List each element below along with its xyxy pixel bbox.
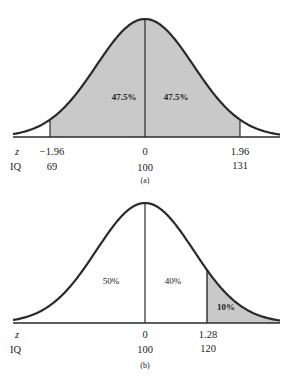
panel-a: 47.5% 47.5% z IQ −1.96 0 1.96 69 100 131… [10, 19, 280, 185]
pct-right-a: 47.5% [164, 92, 189, 102]
pct-tail-b: 10% [217, 302, 235, 312]
normal-curve-b [13, 203, 280, 321]
caption-b: (b) [140, 361, 150, 370]
iq-tick-a-0: 69 [47, 161, 58, 172]
z-row-label-a: z [14, 146, 19, 157]
pct-left-a: 47.5% [112, 92, 137, 102]
figure: 47.5% 47.5% z IQ −1.96 0 1.96 69 100 131… [0, 0, 296, 382]
iq-row-label-a: IQ [10, 161, 21, 172]
shaded-upper-tail [207, 270, 280, 323]
iq-tick-b-1: 120 [200, 343, 216, 354]
z-tick-a-0: −1.96 [40, 146, 64, 157]
caption-a: (a) [141, 176, 150, 185]
z-tick-a-1: 0 [142, 146, 147, 157]
panel-b: 50% 40% 10% z IQ 0 1.28 100 120 (b) [10, 203, 280, 370]
pct-left-b: 50% [103, 276, 120, 286]
pct-mid-b: 40% [165, 276, 182, 286]
z-tick-a-2: 1.96 [231, 146, 249, 157]
iq-tick-a-1: 100 [137, 162, 153, 173]
z-tick-b-0: 0 [142, 329, 147, 340]
z-row-label-b: z [14, 329, 19, 340]
iq-tick-a-2: 131 [232, 160, 248, 171]
iq-row-label-b: IQ [10, 344, 21, 355]
iq-tick-b-0: 100 [137, 344, 153, 355]
z-tick-b-1: 1.28 [199, 329, 217, 340]
